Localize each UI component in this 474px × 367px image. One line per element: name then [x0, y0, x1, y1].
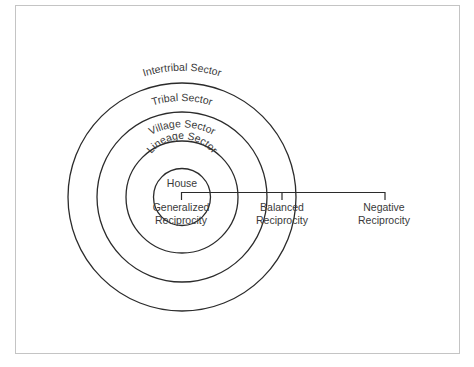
- generalized-line1: Generalized: [153, 201, 210, 213]
- negative-reciprocity-label: Negative Reciprocity: [358, 201, 411, 226]
- intertribal-sector-label: Intertribal Sector: [141, 61, 223, 79]
- reciprocity-sector-diagram: Intertribal Sector Tribal Sector Village…: [0, 0, 474, 367]
- reciprocity-bracket: [182, 193, 386, 201]
- tribal-sector-label: Tribal Sector: [150, 91, 214, 108]
- balanced-reciprocity-label: Balanced Reciprocity: [256, 201, 309, 226]
- house-label: House: [167, 177, 198, 189]
- balanced-line1: Balanced: [260, 201, 304, 213]
- balanced-line2: Reciprocity: [256, 214, 309, 226]
- generalized-reciprocity-label: Generalized Reciprocity: [153, 201, 210, 226]
- negative-line2: Reciprocity: [358, 214, 411, 226]
- negative-line1: Negative: [363, 201, 405, 213]
- generalized-line2: Reciprocity: [155, 214, 208, 226]
